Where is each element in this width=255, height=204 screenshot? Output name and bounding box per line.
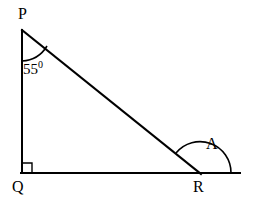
- exterior-angle-label-a: A: [206, 136, 218, 152]
- vertex-label-q: Q: [12, 179, 24, 195]
- geometry-diagram: P Q R A 550: [0, 0, 255, 204]
- geometry-canvas: [0, 0, 255, 204]
- angle-arc-r: [176, 142, 231, 173]
- vertex-label-p: P: [18, 6, 27, 22]
- degree-symbol-icon: 0: [38, 59, 43, 70]
- right-angle-marker-q: [22, 163, 32, 173]
- angle-measure-p: 550: [23, 60, 43, 77]
- segment-pr: [22, 30, 201, 174]
- vertex-label-r: R: [193, 179, 204, 195]
- angle-measure-p-value: 55: [23, 61, 38, 77]
